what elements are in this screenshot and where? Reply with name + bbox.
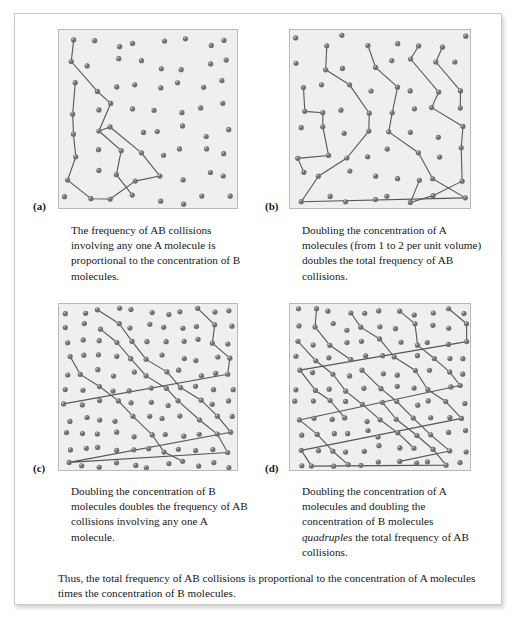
panel-c-molecules [61, 306, 236, 471]
panel-d-svg [290, 304, 471, 471]
caption-d-before: Doubling the concentration of A molecule… [302, 485, 446, 527]
panel-caption-a: The frequency of AB collisions involving… [71, 223, 246, 284]
panel-c-diagram [58, 303, 238, 471]
panel-a-diagram [58, 29, 238, 209]
panel-a-molecules [62, 36, 233, 207]
panel-d-diagram [289, 303, 471, 471]
panel-label-a: (a) [33, 200, 46, 212]
panel-b-svg [290, 30, 471, 209]
panel-caption-b: Doubling the concentration of A molecule… [302, 223, 482, 284]
panel-b-collision-paths [298, 46, 466, 203]
panel-caption-d: Doubling the concentration of A molecule… [302, 484, 480, 560]
panel-label-d: (d) [265, 462, 278, 474]
panel-c-svg [59, 304, 238, 471]
panel-a-svg [59, 30, 238, 209]
panel-grid: (a) (b) (c) (d) The frequency of AB coll… [15, 14, 501, 604]
panel-b-diagram [289, 29, 471, 209]
panel-a-collision-paths [68, 40, 160, 199]
panel-caption-c: Doubling the concentration of B molecule… [71, 484, 249, 545]
caption-d-emphasis: quadruples [302, 531, 352, 543]
panel-b-molecules [293, 33, 468, 205]
figure-page: (a) (b) (c) (d) The frequency of AB coll… [14, 13, 502, 605]
figure-summary: Thus, the total frequency of AB collisio… [58, 571, 478, 601]
panel-label-c: (c) [33, 462, 45, 474]
panel-label-b: (b) [265, 200, 278, 212]
panel-c-collision-paths [64, 308, 231, 462]
